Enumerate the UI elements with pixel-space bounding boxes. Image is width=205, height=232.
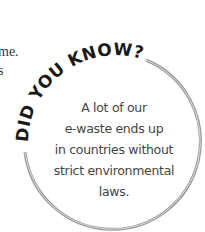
callout-line: laws. xyxy=(40,181,188,202)
callout-line: A lot of our xyxy=(40,97,188,118)
callout-body: A lot of our e-waste ends up in countrie… xyxy=(40,97,188,202)
callout-line: strict environmental xyxy=(40,160,188,181)
callout-line: in countries without xyxy=(40,139,188,160)
callout-line: e-waste ends up xyxy=(40,118,188,139)
